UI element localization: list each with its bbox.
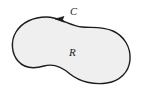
region-diagram: C R — [0, 0, 142, 96]
region-label: R — [68, 46, 76, 58]
curve-label: C — [70, 6, 78, 17]
figure-container: C R — [0, 0, 142, 96]
